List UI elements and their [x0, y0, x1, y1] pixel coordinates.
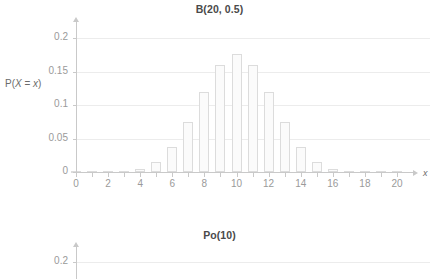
bar-x-8	[199, 92, 209, 172]
x-tick-15	[317, 173, 318, 177]
x-axis-arrow-binomial	[413, 170, 418, 176]
y-tick-label-3: 0.15	[28, 65, 68, 76]
x-tick-14	[301, 173, 302, 177]
poisson-chart-panel: Po(10) 0.2	[0, 196, 439, 279]
x-axis-binomial	[76, 172, 414, 173]
x-tick-18	[365, 173, 366, 177]
x-axis-label: x	[423, 168, 428, 178]
x-tick-10	[237, 173, 238, 177]
x-tick-label-0: 0	[61, 178, 91, 189]
y-axis-binomial	[76, 22, 77, 172]
y-tick-label-2: 0.1	[28, 98, 68, 109]
binomial-plot-area: 00.050.10.150.202468101214161820P(X = x)…	[0, 0, 439, 196]
y-tick-label-4: 0.2	[28, 31, 68, 42]
x-tick-label-18: 18	[350, 178, 380, 189]
x-tick-8	[204, 173, 205, 177]
bar-x-7	[183, 122, 193, 172]
y-tick-3	[73, 72, 77, 73]
y-tick-2	[73, 105, 77, 106]
bar-x-12	[264, 92, 274, 172]
x-tick-19	[381, 173, 382, 177]
y-axis-label: P(X = x)	[5, 78, 41, 89]
y-tick-1	[73, 139, 77, 140]
x-tick-label-10: 10	[222, 178, 252, 189]
x-tick-label-2: 2	[93, 178, 123, 189]
x-tick-7	[188, 173, 189, 177]
x-tick-label-20: 20	[382, 178, 412, 189]
x-tick-16	[333, 173, 334, 177]
x-tick-label-14: 14	[286, 178, 316, 189]
x-tick-9	[220, 173, 221, 177]
bar-x-9	[215, 65, 225, 172]
x-tick-1	[92, 173, 93, 177]
x-tick-label-6: 6	[157, 178, 187, 189]
y-tick-label-1: 0.05	[28, 132, 68, 143]
x-tick-0	[76, 173, 77, 177]
binomial-chart-panel: B(20, 0.5) 00.050.10.150.202468101214161…	[0, 0, 439, 196]
x-tick-17	[349, 173, 350, 177]
bar-x-14	[296, 147, 306, 172]
x-tick-label-4: 4	[125, 178, 155, 189]
x-tick-6	[172, 173, 173, 177]
x-tick-2	[108, 173, 109, 177]
poisson-plot-area: 0.2	[0, 196, 439, 279]
bar-x-13	[280, 122, 290, 172]
y-axis-arrow-poisson	[73, 242, 79, 247]
x-tick-12	[269, 173, 270, 177]
x-tick-label-12: 12	[254, 178, 284, 189]
gridline-poisson-0	[76, 262, 431, 263]
y-tick-poisson-0	[73, 262, 77, 263]
x-tick-label-16: 16	[318, 178, 348, 189]
gridline-y-4	[76, 38, 431, 39]
x-tick-11	[253, 173, 254, 177]
bar-x-6	[167, 147, 177, 172]
y-tick-label-poisson-0: 0.2	[28, 255, 68, 266]
bar-x-5	[151, 162, 161, 172]
y-axis-arrow-binomial	[73, 17, 79, 22]
y-tick-4	[73, 38, 77, 39]
x-tick-13	[285, 173, 286, 177]
x-tick-5	[156, 173, 157, 177]
bar-x-15	[312, 162, 322, 172]
y-tick-label-0: 0	[28, 165, 68, 176]
bar-x-10	[232, 54, 242, 172]
y-axis-poisson	[76, 247, 77, 279]
bar-x-11	[248, 65, 258, 172]
x-tick-label-8: 8	[189, 178, 219, 189]
x-tick-3	[124, 173, 125, 177]
x-tick-20	[397, 173, 398, 177]
x-tick-4	[140, 173, 141, 177]
